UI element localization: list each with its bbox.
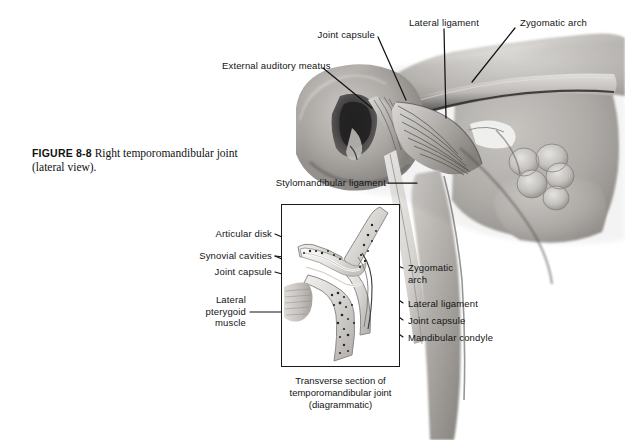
label-joint-capsule-main: Joint capsule: [243, 29, 375, 41]
label-zygomatic-arch-main: Zygomatic arch: [520, 17, 587, 29]
transverse-section-artwork: [282, 205, 398, 365]
zygomatic-arch-line-2: arch: [408, 274, 478, 286]
figure-number: FIGURE 8-8: [32, 147, 92, 159]
inset-caption: Transverse section of temporomandibular …: [258, 375, 423, 411]
lateral-pterygoid-line-1: Lateral: [182, 294, 246, 306]
label-inset-mandibular-condyle: Mandibular condyle: [408, 332, 493, 344]
lateral-pterygoid-line-3: muscle: [182, 317, 246, 329]
figure-caption-line-2: (lateral view).: [32, 161, 97, 173]
inset-caption-line-1: Transverse section of: [258, 375, 423, 387]
inset-caption-line-3: (diagrammatic): [258, 399, 423, 411]
label-inset-lateral-ligament: Lateral ligament: [408, 298, 478, 310]
label-external-auditory-meatus: External auditory meatus: [222, 60, 322, 72]
label-inset-joint-capsule-right: Joint capsule: [408, 315, 465, 327]
label-stylomandibular-ligament: Stylomandibular ligament: [258, 177, 386, 189]
zygomatic-arch-line-1: Zygomatic: [408, 262, 478, 274]
label-inset-joint-capsule-left: Joint capsule: [180, 266, 272, 278]
label-inset-zygomatic-arch: Zygomatic arch: [408, 262, 478, 285]
figure-caption: FIGURE 8-8 Right temporomandibular joint…: [32, 146, 247, 174]
figure-caption-line-1: Right temporomandibular joint: [95, 147, 238, 159]
inset-caption-line-2: temporomandibular joint: [258, 387, 423, 399]
lateral-pterygoid-line-2: pterygoid: [182, 306, 246, 318]
label-inset-articular-disk: Articular disk: [180, 228, 272, 240]
label-lateral-ligament-main: Lateral ligament: [396, 17, 492, 29]
label-inset-lateral-pterygoid-muscle: Lateral pterygoid muscle: [182, 294, 246, 329]
figure-container: FIGURE 8-8 Right temporomandibular joint…: [0, 0, 625, 440]
label-inset-synovial-cavities: Synovial cavities: [170, 250, 272, 262]
inset-diagram-frame: [281, 204, 400, 367]
